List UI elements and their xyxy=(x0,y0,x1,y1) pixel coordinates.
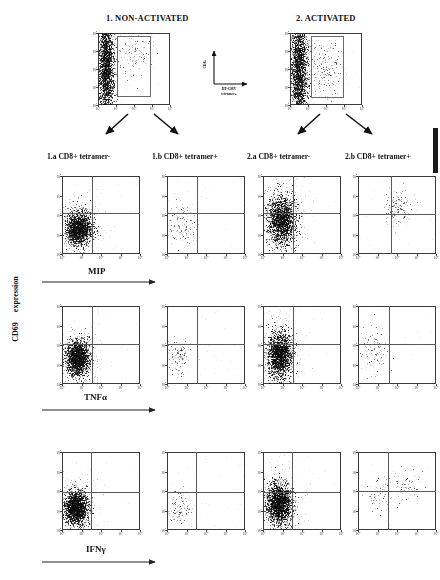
y-tick-mark xyxy=(261,326,263,327)
x-tick-mark xyxy=(322,384,323,386)
y-tick-mark xyxy=(261,511,263,512)
x-tick-mark xyxy=(358,384,359,386)
x-tick-mark xyxy=(62,384,63,386)
x-tick-mark xyxy=(62,254,63,256)
y-tick-mark xyxy=(165,345,167,346)
x-tick-mark xyxy=(436,530,437,532)
gate-rectangle xyxy=(311,36,345,98)
row-label-mip: MIP xyxy=(88,266,106,276)
x-tick-mark xyxy=(121,530,122,532)
y-tick-mark xyxy=(165,196,167,197)
y-tick-mark xyxy=(96,33,98,34)
panel-tnfa-2a: 100100101101102102103103104104 xyxy=(263,306,341,384)
scatter-canvas xyxy=(263,176,341,254)
branch-arrows-activated xyxy=(284,112,424,142)
panel-mip-1a: 100100101101102102103103104104 xyxy=(62,176,140,254)
x-tick-mark xyxy=(140,530,141,532)
x-tick-mark xyxy=(417,384,418,386)
x-tick-mark xyxy=(283,384,284,386)
x-tick-mark xyxy=(322,254,323,256)
x-tick-mark xyxy=(378,254,379,256)
y-tick-mark xyxy=(356,345,358,346)
panel-tnfa-2b: 100100101101102102103103104104 xyxy=(358,306,436,384)
y-tick-mark xyxy=(96,87,98,88)
y-tick-mark xyxy=(356,472,358,473)
y-axis-label-line2: expression xyxy=(11,276,20,312)
quadrant-line-horizontal xyxy=(62,213,140,214)
x-tick-mark xyxy=(140,254,141,256)
x-tick-mark xyxy=(344,105,345,107)
y-tick-mark xyxy=(261,472,263,473)
y-axis-label-line1: CD69 xyxy=(11,322,20,342)
y-tick-mark xyxy=(165,326,167,327)
x-tick-mark xyxy=(341,530,342,532)
panel-mip-2b: 100100101101102102103103104104 xyxy=(358,176,436,254)
x-tick-mark xyxy=(82,530,83,532)
x-tick-mark xyxy=(378,384,379,386)
x-tick-mark xyxy=(206,384,207,386)
y-tick-mark xyxy=(165,472,167,473)
flow-cytometry-figure: 1. NON-ACTIVATED 2. ACTIVATED 1001001011… xyxy=(0,0,440,580)
center-axis-arrows xyxy=(206,46,252,90)
x-tick-mark xyxy=(134,105,135,107)
quadrant-line-horizontal xyxy=(263,492,341,493)
y-tick-mark xyxy=(60,176,62,177)
x-tick-mark xyxy=(283,254,284,256)
y-tick-mark xyxy=(288,51,290,52)
quadrant-line-vertical xyxy=(92,176,93,254)
y-axis-label-cd69: CD69 expression xyxy=(4,272,22,346)
y-tick-mark xyxy=(261,491,263,492)
scatter-plot-non-activated: 100100101101102102103103104104 xyxy=(98,33,170,105)
x-tick-mark xyxy=(358,254,359,256)
y-tick-mark xyxy=(356,326,358,327)
center-axis-x-label-line1: HT-CMV xyxy=(206,87,252,91)
y-tick-mark xyxy=(261,345,263,346)
x-tick-mark xyxy=(362,105,363,107)
x-tick-mark xyxy=(206,530,207,532)
x-tick-mark xyxy=(101,530,102,532)
quadrant-line-horizontal xyxy=(167,492,245,493)
x-tick-mark xyxy=(82,384,83,386)
y-tick-mark xyxy=(261,215,263,216)
x-tick-mark xyxy=(167,254,168,256)
x-tick-mark xyxy=(358,530,359,532)
x-tick-mark xyxy=(326,105,327,107)
y-tick-mark xyxy=(60,196,62,197)
quadrant-line-horizontal xyxy=(167,213,245,214)
y-tick-mark xyxy=(60,491,62,492)
gate-rectangle xyxy=(117,36,151,97)
y-tick-mark xyxy=(165,491,167,492)
x-tick-mark xyxy=(378,530,379,532)
y-tick-mark xyxy=(356,365,358,366)
panel-ifng-2b: 100100101101102102103103104104 xyxy=(358,452,436,530)
column-label-2b: 2.b CD8+ tetramer+ xyxy=(345,152,411,161)
x-tick-mark xyxy=(187,384,188,386)
x-tick-mark xyxy=(283,530,284,532)
panel-tnfa-1a: 100100101101102102103103104104 xyxy=(62,306,140,384)
quadrant-line-horizontal xyxy=(263,213,341,214)
x-tick-mark xyxy=(302,530,303,532)
x-tick-mark xyxy=(167,530,168,532)
y-tick-mark xyxy=(165,306,167,307)
x-tick-mark xyxy=(341,254,342,256)
x-tick-mark xyxy=(187,254,188,256)
panel-ifng-2a: 100100101101102102103103104104 xyxy=(263,452,341,530)
quadrant-line-vertical xyxy=(293,176,294,254)
y-tick-mark xyxy=(356,215,358,216)
y-tick-mark xyxy=(165,235,167,236)
x-tick-mark xyxy=(308,105,309,107)
row-label-ifng: IFNγ xyxy=(86,544,106,554)
x-tick-mark xyxy=(263,384,264,386)
branch-arrows-non-activated xyxy=(92,112,232,142)
y-tick-mark xyxy=(356,452,358,453)
quadrant-line-horizontal xyxy=(62,344,140,345)
quadrant-line-horizontal xyxy=(263,344,341,345)
y-tick-mark xyxy=(288,69,290,70)
quadrant-line-horizontal xyxy=(167,344,245,345)
x-tick-mark xyxy=(417,254,418,256)
y-tick-mark xyxy=(60,306,62,307)
x-tick-mark xyxy=(116,105,117,107)
y-tick-mark xyxy=(261,196,263,197)
x-tick-mark xyxy=(322,530,323,532)
quadrant-line-horizontal xyxy=(62,492,140,493)
